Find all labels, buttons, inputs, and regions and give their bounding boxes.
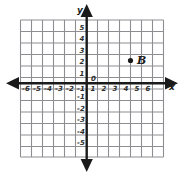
y-tick-label: 4	[80, 35, 85, 43]
coordinate-plane-canvas: x y 0 -6 -5 -4 -3 -2 -1 1 2 3 4 5 6 5 4 …	[0, 0, 184, 173]
x-tick-label: 5	[135, 85, 140, 93]
origin-label: 0	[91, 75, 96, 83]
x-tick-label: -3	[55, 85, 63, 93]
coordinate-plane-figure: x y 0 -6 -5 -4 -3 -2 -1 1 2 3 4 5 6 5 4 …	[0, 0, 184, 173]
x-tick-label: 6	[146, 85, 151, 93]
y-tick-label: 1	[80, 70, 85, 78]
y-tick-label: -3	[77, 116, 85, 124]
x-tick-label: -2	[66, 85, 74, 93]
x-tick-label: 3	[113, 85, 118, 93]
x-tick-label: 2	[102, 85, 107, 93]
y-tick-label: -1	[77, 93, 85, 101]
point-b-marker[interactable]	[128, 58, 133, 63]
y-tick-label: -2	[77, 105, 85, 113]
x-tick-label: -5	[33, 85, 41, 93]
x-tick-label: -1	[77, 85, 85, 93]
y-tick-label: -5	[77, 139, 85, 147]
y-tick-label: -4	[77, 128, 85, 136]
point-b-label: B	[136, 54, 146, 67]
x-tick-label: 1	[91, 85, 96, 93]
y-tick-label: 3	[80, 47, 85, 55]
y-tick-label: 2	[80, 58, 85, 66]
x-axis-label: x	[168, 82, 176, 92]
x-tick-label: -4	[44, 85, 52, 93]
x-tick-label: 4	[124, 85, 129, 93]
x-tick-label: -6	[22, 85, 30, 93]
y-tick-label: 5	[80, 24, 85, 32]
